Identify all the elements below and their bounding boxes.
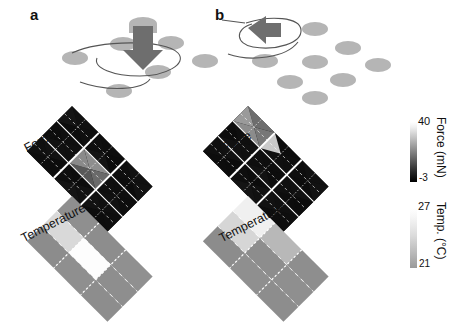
shear-arrow-icon	[248, 16, 281, 44]
schematic-a-svg	[45, 6, 235, 106]
temperature-colorbar-gradient	[410, 208, 417, 268]
temperature-colorbar-min-tick: 21	[419, 258, 430, 269]
schematic-panel-a	[45, 6, 235, 106]
temperature-colorbar-max-tick: 27	[418, 200, 430, 212]
panel-label-a: a	[30, 6, 38, 23]
force-colorbar-min-tick: -3	[419, 172, 428, 183]
force-colorbar-gradient	[410, 122, 417, 182]
force-colorbar-max-tick: 40	[418, 115, 430, 127]
temperature-colorbar-title: Temp. (°C)	[434, 202, 448, 259]
schematic-panel-b	[218, 6, 408, 106]
temperature-map-a-iso	[27, 196, 153, 322]
temperature-map-a-grid	[27, 196, 153, 322]
schematic-b-svg	[218, 6, 408, 106]
force-colorbar-title: Force (mN)	[434, 117, 448, 178]
temperature-map-panel-a	[72, 196, 222, 326]
